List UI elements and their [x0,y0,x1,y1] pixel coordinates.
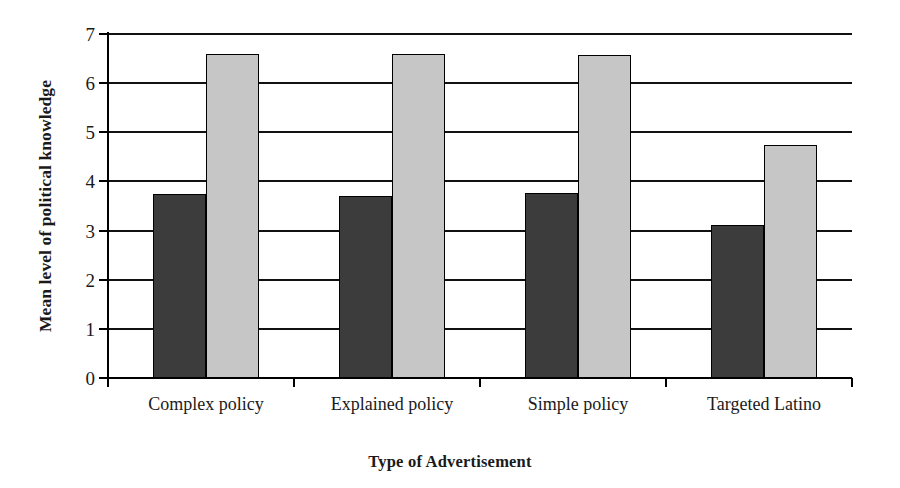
x-axis-category-label: Explained policy [331,394,453,415]
y-axis-tick-label: 0 [86,369,96,388]
gridline [108,33,852,35]
bar [153,194,206,378]
y-axis-tick [99,180,109,182]
x-axis-separator [107,378,109,387]
y-axis-tick-label: 3 [86,221,96,240]
x-axis-separator [293,378,295,387]
x-axis-category-label: Complex policy [148,394,264,415]
plot-area: 01234567 [108,34,852,378]
y-axis-tick-label: 4 [86,172,96,191]
y-axis-tick-label: 2 [86,270,96,289]
y-axis-tick-label: 7 [86,25,96,44]
bar [206,54,259,378]
y-axis-tick [99,328,109,330]
y-axis-tick [99,82,109,84]
y-axis-tick [99,33,109,35]
y-axis-title: Mean level of political knowledge [32,34,58,378]
bar [711,225,764,378]
bar [392,54,445,378]
y-axis-tick [99,230,109,232]
x-axis-title: Type of Advertisement [0,452,900,472]
bar [578,55,631,378]
bar [764,145,817,378]
chart-figure: Mean level of political knowledge 012345… [0,0,900,488]
y-axis-tick [99,131,109,133]
y-axis-tick-label: 1 [86,319,96,338]
y-axis-tick-label: 5 [86,123,96,142]
x-axis-category-label: Targeted Latino [707,394,821,415]
x-axis-separator [851,378,853,387]
y-axis-tick [99,279,109,281]
bar [339,196,392,378]
x-axis-category-label: Simple policy [528,394,629,415]
bar [525,193,578,378]
y-axis-tick-label: 6 [86,74,96,93]
x-axis-separator [479,378,481,387]
x-axis-separator [665,378,667,387]
